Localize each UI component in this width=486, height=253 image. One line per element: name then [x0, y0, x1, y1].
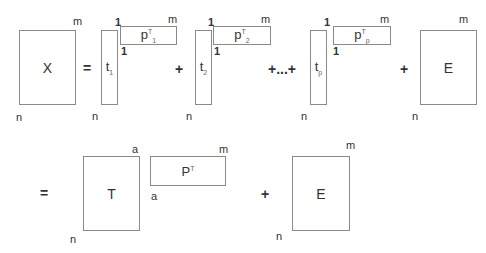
- e-top-cols-label: m: [459, 14, 468, 25]
- vector-pp: pTp: [333, 26, 391, 45]
- e-top-label: E: [444, 60, 453, 76]
- t1-label: t1: [106, 59, 114, 76]
- pp-cols-label: m: [380, 14, 389, 25]
- matrix-t: T: [83, 156, 140, 231]
- p-cols-label: m: [219, 144, 228, 155]
- vector-tp: tp: [310, 30, 327, 105]
- x-cols-label: m: [73, 16, 82, 27]
- tp-cols-one: 1: [324, 17, 330, 28]
- p2-rows-one: 1: [214, 46, 220, 57]
- equals-sign-1: =: [83, 61, 91, 75]
- e-bottom-rows-label: n: [276, 231, 282, 242]
- p-label: PT: [182, 164, 195, 179]
- matrix-e-top: E: [420, 30, 477, 105]
- p2-cols-label: m: [261, 14, 270, 25]
- e-top-rows-label: n: [412, 111, 418, 122]
- p1-rows-one: 1: [121, 46, 127, 57]
- matrix-e-bottom: E: [292, 156, 350, 231]
- pp-rows-one: 1: [333, 46, 339, 57]
- plus-sign-1: +: [175, 62, 183, 76]
- t2-label: t2: [200, 59, 208, 76]
- ellipsis-plus: +...+: [268, 62, 296, 76]
- t1-rows-label: n: [92, 111, 98, 122]
- e-bottom-cols-label: m: [346, 140, 355, 151]
- vector-p2: pT2: [213, 26, 271, 45]
- p-rows-label: a: [151, 191, 157, 202]
- vector-t1: t1: [101, 30, 118, 105]
- vector-p1: pT1: [120, 26, 177, 45]
- matrix-p: PT: [150, 156, 226, 186]
- t-label: T: [107, 186, 116, 202]
- p2-label: pT2: [234, 27, 249, 44]
- t-rows-label: n: [70, 234, 76, 245]
- p1-label: pT1: [141, 27, 156, 44]
- t2-rows-label: n: [186, 111, 192, 122]
- vector-t2: t2: [195, 30, 212, 105]
- plus-sign-3: +: [261, 187, 269, 201]
- tp-rows-label: n: [301, 111, 307, 122]
- t-cols-label: a: [132, 144, 138, 155]
- plus-sign-2: +: [400, 62, 408, 76]
- e-bottom-label: E: [316, 186, 325, 202]
- p1-cols-label: m: [168, 14, 177, 25]
- matrix-x: X: [19, 30, 76, 105]
- x-rows-label: n: [16, 112, 22, 123]
- equals-sign-2: =: [40, 186, 48, 200]
- pp-label: pTp: [354, 27, 369, 44]
- matrix-x-label: X: [43, 60, 52, 76]
- tp-label: tp: [315, 59, 323, 76]
